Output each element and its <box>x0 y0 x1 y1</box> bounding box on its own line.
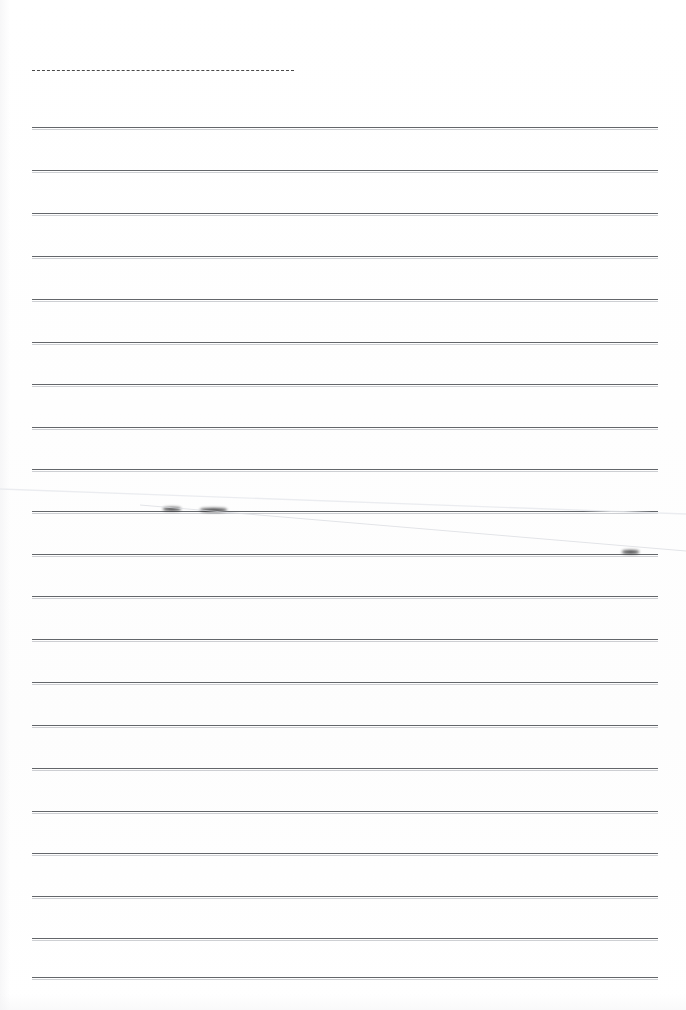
ruled-line <box>32 342 658 343</box>
scan-crease-artifact <box>0 0 686 1010</box>
ruled-line <box>32 469 658 470</box>
ruled-line <box>32 896 658 897</box>
ruled-line <box>32 938 658 939</box>
ruled-line <box>32 768 658 769</box>
ruled-line <box>32 853 658 854</box>
ruled-line <box>32 511 658 512</box>
ink-smudge-c <box>622 550 639 553</box>
ruled-line <box>32 811 658 812</box>
ruled-line <box>32 213 658 214</box>
page-edge-shading-bottom <box>0 994 686 1010</box>
dashed-header-rule <box>32 70 294 71</box>
ruled-line <box>32 725 658 726</box>
scanned-page <box>0 0 686 1010</box>
ruled-line <box>32 682 658 683</box>
paper-background <box>0 0 686 1010</box>
ruled-line <box>32 256 658 257</box>
ruled-line <box>32 299 658 300</box>
ruled-line <box>32 554 658 555</box>
page-edge-shading-left <box>0 0 10 1010</box>
ink-smudge-a <box>163 507 181 510</box>
ruled-line <box>32 384 658 385</box>
ruled-line <box>32 427 658 428</box>
ruled-line <box>32 639 658 640</box>
ruled-line <box>32 977 658 978</box>
ruled-line <box>32 170 658 171</box>
ruled-line <box>32 127 658 128</box>
ink-smudge-b <box>200 508 227 512</box>
ruled-line <box>32 596 658 597</box>
